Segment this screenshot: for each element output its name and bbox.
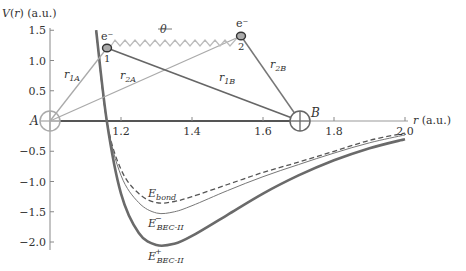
label-r2B: r2B: [270, 58, 286, 73]
spring-icon: [111, 38, 237, 46]
y-tick-label: −2.0: [19, 236, 46, 249]
electron-1-label: e⁻: [101, 30, 114, 43]
x-tick-label: 1.2: [112, 125, 130, 138]
curves: [96, 30, 405, 246]
molecule-diagram: θ A B e⁻ 1 e⁻ 2 r1A r2A r1B r2B: [29, 17, 320, 131]
y-axis-label: V(r) (a.u.): [2, 7, 57, 20]
label-r1A: r1A: [64, 68, 80, 83]
curve-2: [96, 30, 405, 246]
label-r1B: r1B: [219, 71, 235, 86]
label-r2A: r2A: [120, 69, 136, 84]
y-tick-label: 1.0: [29, 55, 47, 68]
electron-1-index: 1: [104, 53, 110, 64]
electron-1-icon: [103, 44, 112, 52]
line-r1A: [50, 48, 107, 121]
label-e-bond: Ebond: [147, 187, 176, 202]
x-tick-label: 1.6: [254, 125, 272, 138]
line-r2B: [241, 36, 300, 121]
electron-2-label: e⁻: [236, 17, 249, 30]
curve-1: [96, 30, 405, 213]
label-e-bec-minus: E−BEC-II: [147, 214, 184, 232]
nucleus-a-icon: [40, 111, 60, 131]
curve-0: [96, 30, 405, 203]
spring-label: θ: [160, 23, 167, 36]
y-tick-label: 0.5: [29, 85, 47, 98]
y-axis: 1.51.00.5−0.5−1.0−1.5−2.0 V(r) (a.u.): [2, 7, 57, 250]
nucleus-b-label: B: [310, 106, 320, 120]
x-axis-label: r (a.u.): [413, 114, 451, 127]
x-tick-label: 1.8: [325, 125, 343, 138]
nucleus-a-label: A: [29, 114, 39, 128]
x-tick-label: 1.4: [183, 125, 201, 138]
electron-2-icon: [237, 32, 246, 40]
potential-energy-chart: 1.51.00.5−0.5−1.0−1.5−2.0 V(r) (a.u.) 1.…: [0, 0, 466, 271]
label-e-bec-plus: E+BEC-II: [147, 247, 184, 265]
y-tick-label: −1.0: [19, 176, 46, 189]
nucleus-b-icon: [290, 111, 310, 131]
y-tick-label: −1.5: [19, 206, 46, 219]
y-tick-label: −0.5: [19, 145, 46, 158]
y-tick-label: 1.5: [29, 24, 47, 37]
electron-2-index: 2: [238, 41, 244, 52]
